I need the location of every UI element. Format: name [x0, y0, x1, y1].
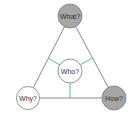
node-how-label: How? — [105, 95, 123, 102]
edge-what-why — [28, 16, 70, 98]
edge-what-how — [70, 16, 114, 98]
node-what-label: What? — [60, 13, 80, 20]
node-why: Why? — [17, 87, 40, 110]
node-who-label: Who? — [61, 68, 79, 75]
node-how: How? — [102, 86, 126, 110]
node-why-label: Why? — [19, 95, 37, 103]
node-who: Who? — [58, 59, 82, 83]
node-what: What? — [58, 4, 82, 28]
triangle-diagram: What? Who? Why? How? — [0, 0, 140, 122]
